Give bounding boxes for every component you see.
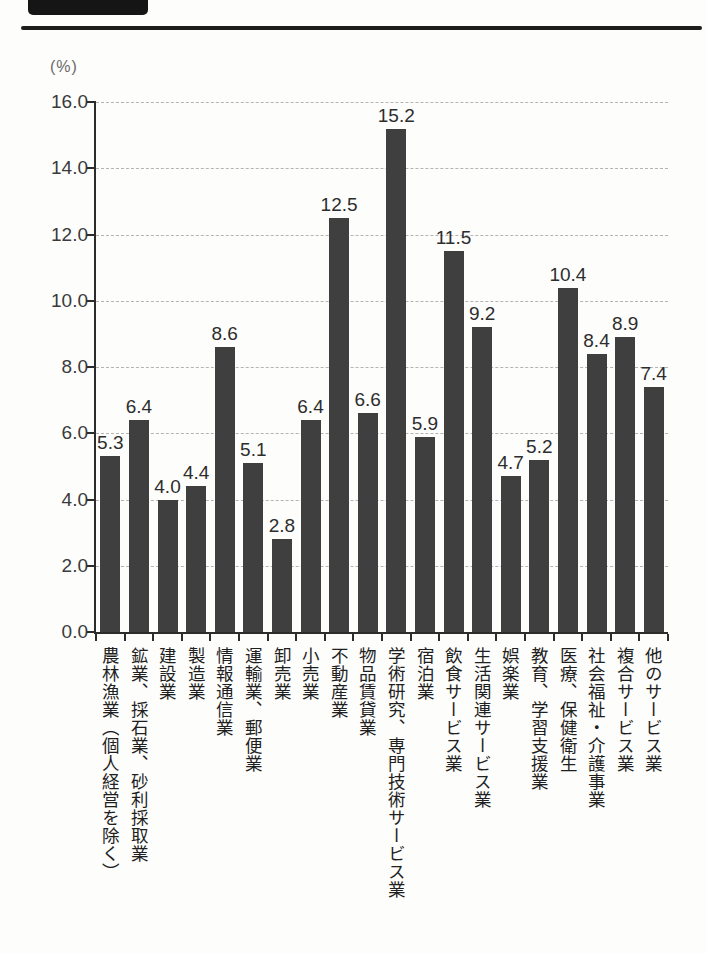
x-axis-tick-mark [610, 634, 612, 641]
bar [358, 413, 378, 632]
y-axis-tick-label: 10.0 [30, 290, 88, 312]
bar [186, 486, 206, 632]
x-axis-tick-mark [324, 634, 326, 641]
y-axis-tick-label: 0.0 [30, 621, 88, 643]
gridline [96, 168, 668, 169]
gridline [96, 433, 668, 434]
bar [129, 420, 149, 632]
category-label: 複合サービス業 [614, 647, 634, 773]
x-axis-tick-mark [181, 634, 183, 641]
bar-value-label: 12.5 [307, 194, 371, 216]
category-label: 農林漁業（個人経営を除く） [99, 647, 119, 881]
x-axis-tick-mark [152, 634, 154, 641]
category-label: 卸売業 [271, 647, 291, 701]
bar [329, 218, 349, 632]
category-label: 運輸業、郵便業 [242, 647, 262, 773]
x-axis-tick-mark [95, 634, 97, 641]
bar-chart: 0.02.04.06.08.010.012.014.016.05.3農林漁業（個… [0, 0, 707, 953]
bar-value-label: 7.4 [622, 363, 686, 385]
gridline [96, 367, 668, 368]
category-label: 製造業 [185, 647, 205, 701]
category-label: 学術研究、専門技術サービス業 [385, 647, 405, 899]
bar [215, 347, 235, 632]
gridline [96, 102, 668, 103]
bar [301, 420, 321, 632]
x-axis-tick-mark [381, 634, 383, 641]
y-axis-line [94, 101, 96, 633]
x-axis-tick-mark [495, 634, 497, 641]
gridline [96, 235, 668, 236]
x-axis-tick-mark [467, 634, 469, 641]
category-label: 建設業 [157, 647, 177, 701]
category-label: 教育、学習支援業 [528, 647, 548, 791]
bar [415, 437, 435, 632]
y-axis-tick-label: 16.0 [30, 91, 88, 113]
x-axis-tick-mark [638, 634, 640, 641]
x-axis-tick-mark [352, 634, 354, 641]
bar [644, 387, 664, 632]
x-axis-tick-mark [267, 634, 269, 641]
page: (%) 0.02.04.06.08.010.012.014.016.05.3農林… [0, 0, 707, 953]
bar [272, 539, 292, 632]
bar-value-label: 8.9 [593, 313, 657, 335]
bar [472, 327, 492, 632]
y-axis-tick-label: 8.0 [30, 356, 88, 378]
bar [587, 354, 607, 632]
bar-value-label: 11.5 [422, 227, 486, 249]
category-label: 不動産業 [328, 647, 348, 719]
x-axis-tick-mark [410, 634, 412, 641]
bar [529, 460, 549, 632]
category-label: 飲食サービス業 [443, 647, 463, 773]
category-label: 宿泊業 [414, 647, 434, 701]
gridline [96, 500, 668, 501]
category-label: 生活関連サービス業 [471, 647, 491, 809]
category-label: 物品賃貸業 [357, 647, 377, 737]
category-label: 社会福祉・介護事業 [586, 647, 606, 809]
y-axis-tick-label: 4.0 [30, 489, 88, 511]
bar-value-label: 15.2 [364, 105, 428, 127]
y-axis-tick-label: 2.0 [30, 555, 88, 577]
bar [158, 500, 178, 633]
bar-value-label: 8.6 [193, 323, 257, 345]
gridline [96, 566, 668, 567]
category-label: 鉱業、採石業、砂利採取業 [128, 647, 148, 863]
x-axis-tick-mark [209, 634, 211, 641]
category-label: 娯楽業 [500, 647, 520, 701]
x-axis-tick-mark [553, 634, 555, 641]
bar-value-label: 6.4 [107, 396, 171, 418]
y-axis-tick-label: 14.0 [30, 157, 88, 179]
x-axis-tick-mark [581, 634, 583, 641]
x-axis-tick-mark [295, 634, 297, 641]
x-axis-tick-mark [438, 634, 440, 641]
bar-value-label: 9.2 [450, 303, 514, 325]
bar [243, 463, 263, 632]
x-axis-tick-mark [238, 634, 240, 641]
x-axis-tick-mark [124, 634, 126, 641]
y-axis-tick-label: 12.0 [30, 224, 88, 246]
x-axis-tick-mark [667, 634, 669, 641]
category-label: 医療、保健衛生 [557, 647, 577, 773]
category-label: 小売業 [300, 647, 320, 701]
bar-value-label: 10.4 [536, 264, 600, 286]
gridline [96, 301, 668, 302]
x-axis-tick-mark [524, 634, 526, 641]
bar [100, 456, 120, 632]
bar [501, 476, 521, 632]
category-label: 他のサービス業 [643, 647, 663, 773]
category-label: 情報通信業 [214, 647, 234, 737]
bar [386, 129, 406, 633]
bar-value-label: 5.1 [221, 439, 285, 461]
